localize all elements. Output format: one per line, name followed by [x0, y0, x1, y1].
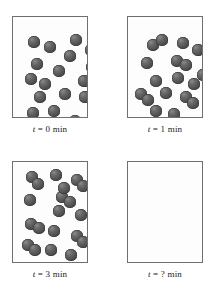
caption-value: 0: [46, 124, 51, 134]
particle-sphere: [69, 115, 80, 118]
particle-sphere: [33, 222, 44, 233]
particle-sphere: [64, 50, 75, 61]
particle-sphere: [45, 244, 56, 255]
caption-variable: t: [33, 269, 36, 279]
caption-equals: =: [153, 269, 158, 279]
particle-sphere: [24, 194, 35, 205]
particle-sphere: [77, 236, 88, 247]
caption-variable: t: [148, 269, 151, 279]
panel-caption: t = 0 min: [12, 124, 88, 135]
particle-sphere: [142, 94, 153, 105]
particle-decay-figure: t = 0 mint = 1 mint = 3 mint = ? min: [0, 0, 219, 290]
panel-panel-3-min: t = 3 min: [12, 161, 88, 281]
caption-unit: min: [168, 124, 183, 134]
caption-variable: t: [33, 124, 36, 134]
particle-sphere: [79, 91, 88, 102]
particle-sphere: [168, 108, 179, 118]
container-box: [127, 16, 203, 118]
particle-sphere: [44, 41, 55, 52]
particle-sphere: [64, 196, 75, 207]
particle-sphere: [53, 65, 64, 76]
particle-sphere: [59, 88, 70, 99]
particle-sphere: [65, 249, 76, 260]
panel-caption: t = ? min: [127, 269, 203, 280]
particle-sphere: [78, 75, 88, 86]
particle-sphere: [53, 205, 64, 216]
particle-sphere: [32, 178, 43, 189]
particle-sphere: [180, 59, 191, 70]
caption-variable: t: [148, 124, 151, 134]
particle-sphere: [31, 58, 42, 69]
particle-sphere: [34, 91, 45, 102]
panel-panel-unknown-min: t = ? min: [127, 161, 203, 281]
particle-sphere: [141, 57, 152, 68]
caption-equals: =: [38, 124, 43, 134]
particle-sphere: [85, 44, 88, 55]
particle-sphere: [188, 78, 199, 89]
container-box: [12, 161, 88, 263]
particle-sphere: [150, 105, 161, 116]
caption-unit: min: [53, 269, 68, 279]
particle-sphere: [27, 107, 38, 118]
container-box: [12, 16, 88, 118]
particle-sphere: [187, 97, 198, 108]
caption-unit: min: [167, 269, 182, 279]
caption-value: 3: [46, 269, 51, 279]
particle-sphere: [58, 182, 69, 193]
particle-sphere: [87, 104, 88, 115]
particle-sphere: [197, 69, 203, 80]
particle-sphere: [48, 105, 59, 116]
particle-sphere: [150, 75, 161, 86]
caption-unit: min: [53, 124, 68, 134]
panel-caption: t = 3 min: [12, 269, 88, 280]
panel-caption: t = 1 min: [127, 124, 203, 135]
particle-sphere: [172, 72, 183, 83]
caption-value: 1: [161, 124, 166, 134]
panel-panel-0-min: t = 0 min: [12, 16, 88, 136]
particle-sphere: [160, 87, 171, 98]
caption-value: ?: [161, 269, 165, 279]
caption-equals: =: [153, 124, 158, 134]
particle-sphere: [177, 37, 188, 48]
particle-sphere: [29, 244, 40, 255]
particle-sphere: [39, 78, 50, 89]
particle-sphere: [156, 34, 167, 45]
container-box: [127, 161, 203, 263]
particle-sphere: [70, 34, 81, 45]
panel-panel-1-min: t = 1 min: [127, 16, 203, 136]
particle-sphere: [28, 36, 39, 47]
particle-sphere: [86, 61, 88, 72]
particle-sphere: [75, 209, 86, 220]
caption-equals: =: [38, 269, 43, 279]
particle-sphere: [192, 44, 203, 55]
particle-sphere: [77, 180, 88, 191]
particle-sphere: [48, 225, 59, 236]
particle-sphere: [25, 73, 36, 84]
particle-sphere: [50, 169, 61, 180]
